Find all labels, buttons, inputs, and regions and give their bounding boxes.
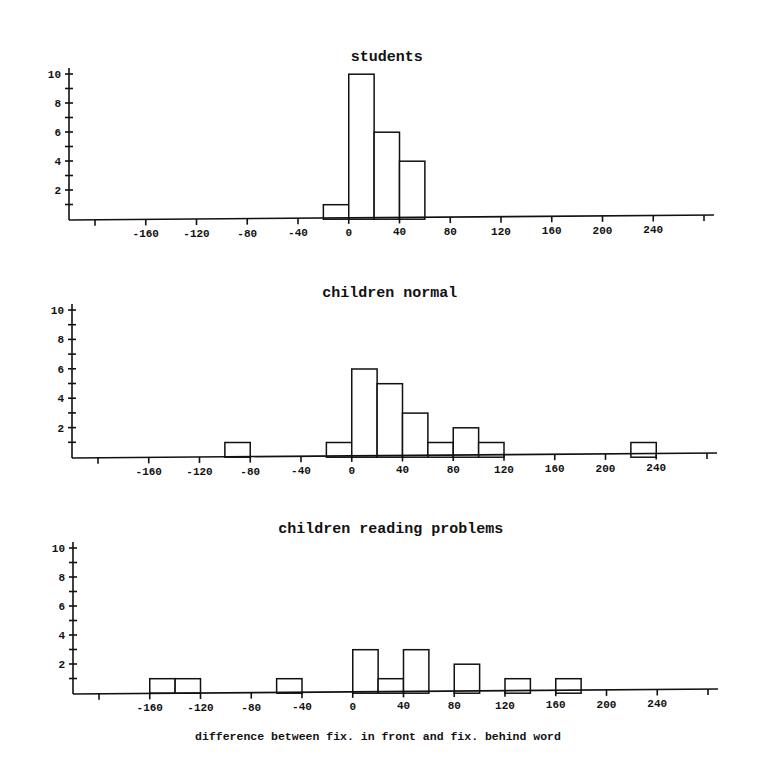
- x-tick-label: -80: [237, 228, 257, 240]
- x-tick-label: -80: [240, 466, 260, 478]
- x-tick-label: 240: [646, 462, 666, 474]
- y-tick-label: 2: [58, 659, 65, 671]
- x-tick-label: 80: [447, 464, 460, 476]
- histogram-panel-children-reading-problems: children reading problems 246810-160-120…: [52, 521, 718, 714]
- y-tick-label: 8: [58, 572, 65, 584]
- x-tick-label: 80: [444, 226, 457, 238]
- histogram-bars: [150, 650, 581, 694]
- x-tick-label: 120: [495, 700, 515, 712]
- y-tick-label: 6: [58, 601, 65, 613]
- panel-title: students: [351, 49, 423, 66]
- histogram-bar: [400, 161, 425, 219]
- x-tick-label: 40: [397, 700, 410, 712]
- y-tick-label: 10: [52, 543, 65, 555]
- x-tick-label: 40: [396, 464, 409, 476]
- x-tick-label: 160: [542, 225, 562, 237]
- x-tick-label: 80: [448, 700, 461, 712]
- x-tick-label: -40: [292, 701, 312, 713]
- histogram-bars: [225, 369, 656, 457]
- histogram-bar: [631, 443, 656, 458]
- histogram-bar: [175, 679, 200, 694]
- y-tick-label: 6: [54, 127, 61, 139]
- histogram-bar: [349, 74, 374, 219]
- x-tick-label: -120: [186, 466, 212, 478]
- x-tick-label: 200: [596, 463, 616, 475]
- histogram-figure: students 246810-160-120-80-4004080120160…: [0, 0, 758, 782]
- x-tick-label: 40: [393, 226, 406, 238]
- y-tick-label: 10: [51, 305, 64, 317]
- y-tick-label: 4: [58, 630, 65, 642]
- histogram-bar: [352, 369, 377, 457]
- x-axis-label: difference between fix. in front and fix…: [195, 730, 561, 743]
- histogram-bar: [150, 679, 175, 694]
- panel-title: children reading problems: [278, 521, 503, 538]
- histogram-bar: [326, 443, 351, 458]
- histogram-bar: [353, 650, 378, 694]
- x-tick-label: 0: [348, 465, 355, 477]
- x-tick-label: -120: [183, 228, 209, 240]
- x-tick-label: 200: [593, 225, 613, 237]
- x-tick-label: -160: [137, 702, 163, 714]
- x-tick-label: 200: [597, 699, 617, 711]
- x-tick-label: -80: [241, 702, 261, 714]
- y-tick-label: 6: [57, 364, 64, 376]
- x-tick-label: 0: [345, 227, 352, 239]
- x-tick-label: -120: [187, 702, 213, 714]
- y-tick-label: 8: [57, 334, 64, 346]
- histogram-bar: [225, 443, 250, 458]
- histogram-bar: [404, 650, 429, 694]
- y-tick-label: 10: [48, 69, 61, 81]
- panel-title: children normal: [322, 285, 457, 302]
- x-tick-label: -40: [288, 227, 308, 239]
- histogram-bar: [323, 205, 348, 220]
- x-tick-label: 160: [546, 699, 566, 711]
- histogram-bars: [323, 74, 425, 219]
- histogram-bar: [453, 428, 478, 457]
- x-tick-label: 240: [643, 224, 663, 236]
- histogram-panel-children-normal: children normal 246810-160-120-80-400408…: [51, 285, 717, 478]
- histogram-bar: [403, 413, 428, 457]
- x-tick-label: 120: [494, 464, 514, 476]
- x-tick-label: -160: [133, 228, 159, 240]
- x-tick-label: -160: [136, 466, 162, 478]
- histogram-bar: [374, 132, 399, 219]
- y-tick-label: 2: [57, 423, 64, 435]
- histogram-bar: [277, 679, 302, 694]
- histogram-panel-students: students 246810-160-120-80-4004080120160…: [48, 49, 714, 240]
- x-tick-label: 160: [545, 463, 565, 475]
- y-tick-label: 4: [54, 156, 61, 168]
- x-tick-label: 0: [349, 701, 356, 713]
- x-tick-label: -40: [291, 465, 311, 477]
- x-tick-label: 120: [491, 226, 511, 238]
- histogram-bar: [454, 664, 479, 693]
- y-tick-label: 4: [57, 393, 64, 405]
- y-tick-label: 2: [54, 185, 61, 197]
- histogram-bar: [377, 384, 402, 458]
- y-tick-label: 8: [54, 98, 61, 110]
- x-tick-label: 240: [647, 698, 667, 710]
